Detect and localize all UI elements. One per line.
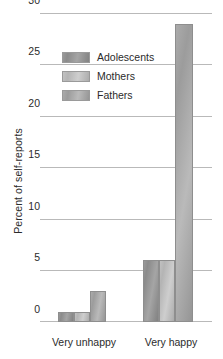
y-tick-15: 15	[6, 149, 40, 160]
legend-label-adolescents: Adolescents	[97, 51, 154, 63]
y-tick-25: 25	[6, 46, 40, 57]
x-category-label-very-unhappy: Very unhappy	[34, 336, 134, 348]
legend-item-fathers: Fathers	[62, 87, 170, 103]
bar-very-happy-adolescents	[143, 260, 159, 322]
y-tick-0: 0	[6, 304, 40, 315]
bar-very-happy-mothers	[159, 260, 175, 322]
legend: Adolescents Mothers Fathers	[62, 49, 170, 106]
legend-swatch-mothers	[62, 71, 90, 82]
bar-very-unhappy-fathers	[90, 291, 106, 322]
legend-item-adolescents: Adolescents	[62, 49, 170, 65]
gridline-30	[40, 13, 212, 14]
y-tick-30: 30	[6, 0, 40, 6]
bar-very-happy-fathers	[175, 24, 193, 322]
y-tick-5: 5	[6, 252, 40, 263]
legend-label-fathers: Fathers	[97, 89, 133, 101]
y-tick-10: 10	[6, 201, 40, 212]
legend-item-mothers: Mothers	[62, 68, 170, 84]
bar-very-unhappy-mothers	[74, 312, 90, 322]
y-axis-ticks: 30 25 20 15 10 5 0	[0, 0, 40, 309]
legend-swatch-fathers	[62, 90, 90, 101]
x-category-label-very-happy: Very happy	[128, 336, 214, 348]
bar-very-unhappy-adolescents	[58, 312, 74, 322]
legend-swatch-adolescents	[62, 52, 90, 63]
y-tick-20: 20	[6, 98, 40, 109]
bar-chart: Percent of self-reports 30 25 20 15 10 5…	[0, 0, 223, 359]
legend-label-mothers: Mothers	[97, 70, 135, 82]
